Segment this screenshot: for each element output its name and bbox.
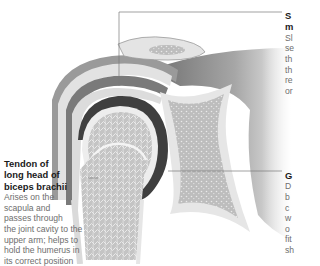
label-synovial-membrane: S m Sl se th th re or [285, 10, 320, 96]
label-synovial-title: S m [285, 10, 320, 33]
label-tendon-title: Tendon of long head of biceps brachii [4, 158, 104, 192]
label-tendon-biceps: Tendon of long head of biceps brachii Ar… [4, 158, 122, 266]
label-tendon-description: Arises on the scapula and passes through… [4, 192, 122, 266]
label-glenoid: G D b c w o fit sh [285, 170, 320, 256]
label-glenoid-title: G [285, 170, 320, 181]
label-synovial-description: Sl se th th re or [285, 33, 320, 97]
label-glenoid-description: D b c w o fit sh [285, 181, 320, 255]
